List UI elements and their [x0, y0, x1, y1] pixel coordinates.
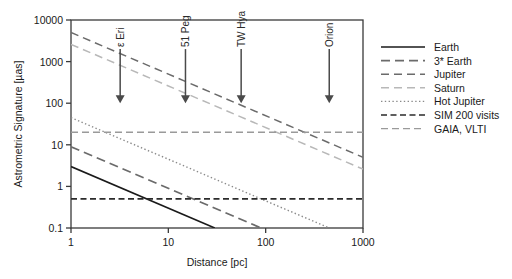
y-tick-label: 0.1 [48, 222, 63, 234]
x-tick-label: 1 [68, 236, 74, 248]
legend: Earth3* EarthJupiterSaturnHot JupiterSIM… [373, 22, 509, 138]
annotation-label: ε Eri [115, 28, 126, 47]
annotation-label: 51 Peg [180, 15, 191, 47]
x-tick-label: 10 [162, 236, 174, 248]
y-tick-label: 10 [51, 139, 63, 151]
y-tick-label: 10000 [34, 14, 63, 26]
legend-label-gaia-vlti: GAIA, VLTI [434, 123, 486, 135]
legend-label-earth: Earth [434, 41, 459, 53]
y-tick-label: 100 [45, 97, 63, 109]
plot-area-border [71, 20, 363, 228]
y-tick-label: 1000 [40, 56, 64, 68]
legend-label-sim-200-visits: SIM 200 visits [434, 109, 499, 121]
x-axis-title: Distance [pc] [187, 256, 248, 268]
y-tick-label: 1 [57, 180, 63, 192]
legend-label-3-earth: 3* Earth [434, 55, 472, 67]
legend-label-jupiter: Jupiter [434, 68, 466, 80]
annotation-label: TW Hya [236, 11, 247, 48]
astrometric-signature-chart: ε Eri51 PegTW HyaOrion 0.111010010001000… [0, 0, 512, 279]
legend-label-saturn: Saturn [434, 82, 465, 94]
y-axis-title: Astrometric Signature [µas] [12, 61, 24, 188]
annotation-label: Orion [324, 23, 335, 47]
legend-label-hot-jupiter: Hot Jupiter [434, 95, 485, 107]
plot-frame [71, 20, 363, 228]
chart-root: ε Eri51 PegTW HyaOrion 0.111010010001000… [0, 0, 512, 279]
x-tick-label: 100 [257, 236, 275, 248]
x-tick-label: 1000 [351, 236, 375, 248]
